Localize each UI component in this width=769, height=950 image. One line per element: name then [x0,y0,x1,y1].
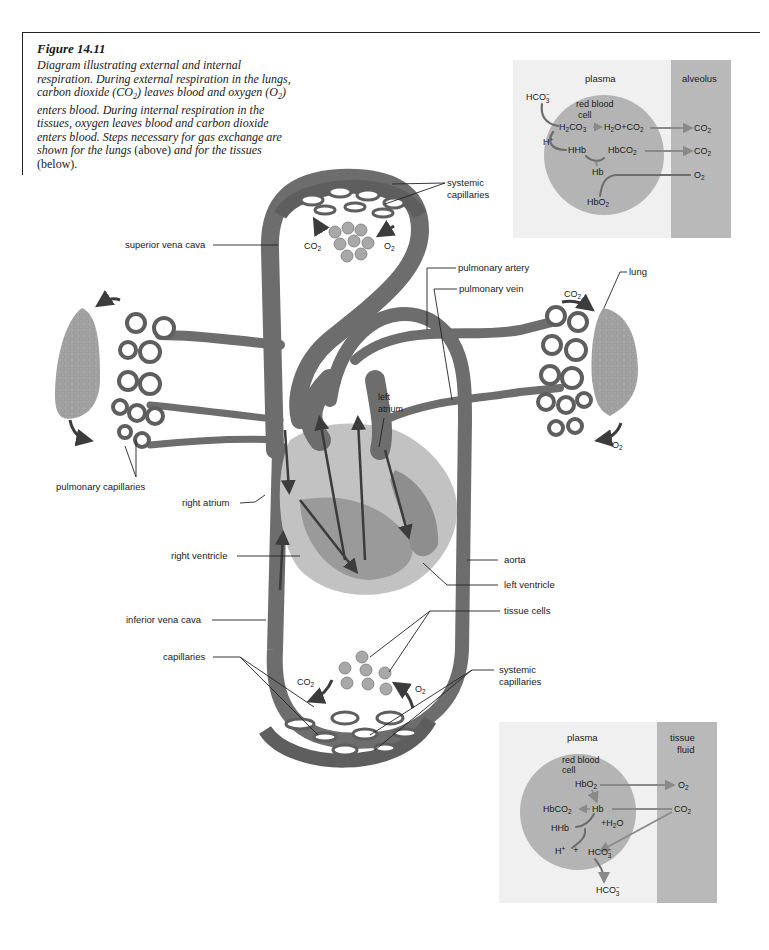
o2-arrow-icon [397,685,413,708]
plasma-label: plasma [567,732,598,743]
co2-label-lung: CO2 [564,289,582,300]
label-superior-vena-cava: superior vena cava [125,239,206,250]
left-lung [55,308,100,419]
pulmonary-vein-vessel [385,388,560,420]
species-h2co3: H2CO3 [559,122,587,133]
o2-label-top: O2 [384,241,395,252]
species-hbco2: HbCO2 [543,804,572,815]
species-hb: Hb [592,167,604,177]
heart [280,380,457,595]
label-pulmonary-vein: pulmonary vein [459,283,523,294]
species-plus: + [573,844,579,855]
label-inferior-vena-cava: inferior vena cava [126,614,202,625]
systemic-capillaries-top: CO2 O2 [280,187,420,262]
inset-tissues: plasma tissue fluid red blood cell HbO2 … [499,722,717,903]
left-pulmonary-artery [160,335,280,345]
label-pulmonary-capillaries: pulmonary capillaries [56,481,145,492]
label-systemic-capillaries-bottom-2: capillaries [499,676,541,687]
label-aorta: aorta [504,554,526,565]
alveolus-label: alveolus [682,73,717,84]
species-hbco2: HbCO2 [608,145,637,156]
tissue-fluid-label-2: fluid [677,744,694,755]
co2-label-top: CO2 [304,241,322,252]
label-systemic-capillaries-bottom-1: systemic [499,664,536,675]
o2-arrow-icon [381,226,394,234]
label-right-ventricle: right ventricle [171,550,228,561]
right-lung-group: CO2 O2 [538,289,638,451]
rbc-label-line2: cell [562,765,576,775]
co2-arrow-icon [312,680,332,700]
label-systemic-capillaries-top-1: systemic [447,177,484,188]
o2-label-lung: O2 [612,440,623,451]
tissue-fluid-label-1: tissue [670,732,695,743]
species-hhb: HHb [551,823,569,833]
o2-arrow-icon [600,423,621,440]
left-lung-group [55,299,174,447]
species-h2o-co2: H2O+CO2 [604,122,644,133]
co2-arrow-icon [562,301,590,308]
plasma-label: plasma [585,73,616,84]
label-systemic-capillaries-top-2: capillaries [447,189,489,200]
left-pulmonary-vein-2 [150,439,280,445]
species-hb: Hb [592,804,604,814]
o2-arrow-icon [70,420,88,440]
label-left-atrium-2: atrium [378,404,403,414]
tissue-cells-top [329,222,374,262]
left-pulmonary-vein-1 [150,405,280,420]
label-left-ventricle: left ventricle [504,579,555,590]
label-right-atrium: right atrium [182,497,230,508]
co2-arrow-icon [100,299,120,304]
rbc-label-line2: cell [578,110,592,120]
species-h2o: +H2O [601,818,623,829]
right-lung [592,308,638,416]
label-left-atrium-1: left [378,392,391,402]
co2-arrow-icon [316,222,322,232]
co2-label-bottom: CO2 [297,677,315,688]
inset-lungs: plasma alveolus red blood cell HCO−3 H2C… [513,60,731,238]
label-tissue-cells: tissue cells [504,605,551,616]
label-lung: lung [629,266,647,277]
rbc-label-line1: red blood [562,755,600,765]
pulmonary-trunk [375,380,382,450]
tissue-cells-bottom [339,651,392,695]
label-capillaries: capillaries [163,651,205,662]
o2-label-bottom: O2 [415,684,426,695]
species-hhb: HHb [568,145,586,155]
respiration-diagram: plasma alveolus red blood cell HCO−3 H2C… [0,0,769,950]
label-pulmonary-artery: pulmonary artery [458,262,530,273]
rbc-label-line1: red blood [576,99,614,109]
